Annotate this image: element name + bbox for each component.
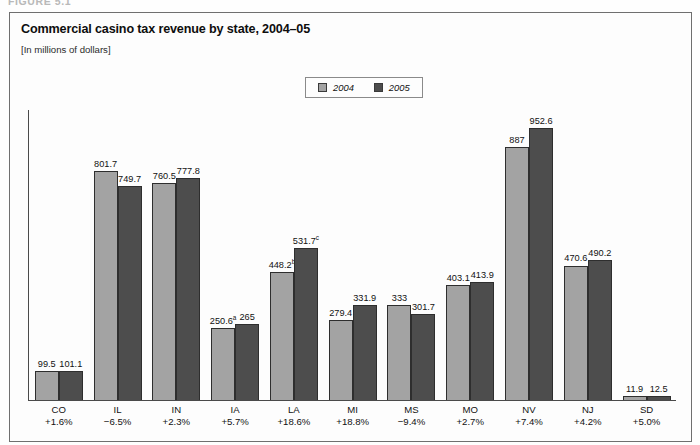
bar-rect[interactable] [564, 266, 588, 400]
bar-rect[interactable] [329, 320, 353, 400]
bar-rect[interactable] [353, 305, 377, 399]
percent-change: +2.7% [441, 416, 500, 428]
x-axis-label-nj: NJ+4.2% [558, 404, 617, 428]
bar-rect[interactable] [647, 396, 671, 400]
chart-units-subtitle: [In millions of dollars] [21, 44, 111, 55]
bar-rect[interactable] [294, 248, 318, 399]
percent-change: +2.3% [147, 416, 206, 428]
bar-rect[interactable] [35, 371, 59, 399]
x-axis-line [28, 400, 676, 401]
bar-rect[interactable] [588, 260, 612, 400]
bar-group: 99.5101.1 [29, 110, 88, 400]
bar-group: 333301.7 [382, 110, 441, 400]
percent-change: +18.6% [265, 416, 324, 428]
bar-rect[interactable] [505, 147, 529, 399]
bar-group: 448.2b531.7c [265, 110, 324, 400]
bar-2005[interactable]: 265 [235, 324, 259, 399]
bar-rect[interactable] [59, 371, 83, 400]
state-abbr: IN [147, 404, 206, 416]
bar-2005[interactable]: 301.7 [411, 314, 435, 400]
x-axis-label-mo: MO+2.7% [441, 404, 500, 428]
state-abbr: CO [29, 404, 88, 416]
percent-change: +7.4% [500, 416, 559, 428]
bar-rect[interactable] [211, 328, 235, 399]
bar-2005[interactable]: 12.5 [647, 396, 671, 400]
bar-2004[interactable]: 448.2b [270, 272, 294, 400]
bar-rect[interactable] [470, 282, 494, 400]
page-title: Commercial casino tax revenue by state, … [21, 22, 310, 36]
percent-change: +4.2% [558, 416, 617, 428]
bar-rect[interactable] [176, 178, 200, 399]
bar-rect[interactable] [446, 285, 470, 400]
bar-value-label: 265 [239, 313, 254, 322]
bar-value-label: 333 [392, 294, 407, 303]
bar-2005[interactable]: 531.7c [294, 248, 318, 399]
bar-group: 279.4331.9 [323, 110, 382, 400]
bar-2004[interactable]: 887 [505, 147, 529, 399]
chart-legend: 2004 2005 [305, 77, 423, 98]
bar-rect[interactable] [387, 305, 411, 400]
bar-group: 403.1413.9 [441, 110, 500, 400]
bar-value-label: 403.1 [447, 274, 470, 283]
bar-rect[interactable] [118, 186, 142, 399]
percent-change: −9.4% [382, 416, 441, 428]
bar-2004[interactable]: 470.6 [564, 266, 588, 400]
bar-2005[interactable]: 490.2 [588, 260, 612, 400]
bar-group: 470.6490.2 [558, 110, 617, 400]
bar-rect[interactable] [235, 324, 259, 399]
bar-value-label: 531.7c [293, 237, 319, 246]
figure-root: FIGURE 5.1 Commercial casino tax revenue… [0, 0, 700, 445]
bar-group: 801.7749.7 [88, 110, 147, 400]
percent-change: +5.0% [617, 416, 676, 428]
bar-2005[interactable]: 413.9 [470, 282, 494, 400]
x-axis-label-co: CO+1.6% [29, 404, 88, 428]
bar-2004[interactable]: 801.7 [94, 171, 118, 399]
bar-group: 887952.6 [500, 110, 559, 400]
bar-value-label: 777.8 [177, 167, 200, 176]
bar-rect[interactable] [411, 314, 435, 400]
state-abbr: NV [500, 404, 559, 416]
state-abbr: LA [265, 404, 324, 416]
state-abbr: IL [88, 404, 147, 416]
x-axis-label-nv: NV+7.4% [500, 404, 559, 428]
bar-value-label: 801.7 [94, 160, 117, 169]
bar-2005[interactable]: 777.8 [176, 178, 200, 399]
x-axis-label-ia: IA+5.7% [206, 404, 265, 428]
bar-value-label: 279.4 [329, 309, 352, 318]
square-swatch-icon [374, 83, 383, 92]
bar-2005[interactable]: 331.9 [353, 305, 377, 399]
bar-group: 11.912.5 [617, 110, 676, 400]
bar-value-label: 749.7 [118, 175, 141, 184]
bar-2004[interactable]: 11.9 [623, 396, 647, 399]
legend-item-2005: 2005 [374, 82, 410, 93]
bar-2005[interactable]: 101.1 [59, 371, 83, 400]
bar-value-label: 470.6 [564, 254, 587, 263]
bar-rect[interactable] [152, 183, 176, 399]
state-abbr: SD [617, 404, 676, 416]
bar-2004[interactable]: 760.5 [152, 183, 176, 399]
legend-label: 2004 [333, 82, 354, 93]
x-axis-label-ms: MS−9.4% [382, 404, 441, 428]
bar-value-label: 101.1 [59, 360, 82, 369]
x-axis-label-la: LA+18.6% [265, 404, 324, 428]
bar-rect[interactable] [94, 171, 118, 399]
bar-rect[interactable] [529, 128, 553, 399]
x-axis-label-sd: SD+5.0% [617, 404, 676, 428]
bar-2004[interactable]: 99.5 [35, 371, 59, 399]
bar-2005[interactable]: 749.7 [118, 186, 142, 399]
bar-value-label: 448.2b [269, 261, 296, 270]
bar-2004[interactable]: 279.4 [329, 320, 353, 400]
bar-2005[interactable]: 952.6 [529, 128, 553, 399]
bar-rect[interactable] [623, 396, 647, 399]
plot-area: 99.5101.1801.7749.7760.5777.8250.6a26544… [28, 110, 676, 401]
percent-change: −6.5% [88, 416, 147, 428]
x-axis-label-il: IL−6.5% [88, 404, 147, 428]
bar-2004[interactable]: 403.1 [446, 285, 470, 400]
bar-2004[interactable]: 333 [387, 305, 411, 400]
bar-rect[interactable] [270, 272, 294, 400]
bar-2004[interactable]: 250.6a [211, 328, 235, 399]
percent-change: +5.7% [206, 416, 265, 428]
state-abbr: NJ [558, 404, 617, 416]
percent-change: +1.6% [29, 416, 88, 428]
bar-groups: 99.5101.1801.7749.7760.5777.8250.6a26544… [29, 110, 676, 400]
